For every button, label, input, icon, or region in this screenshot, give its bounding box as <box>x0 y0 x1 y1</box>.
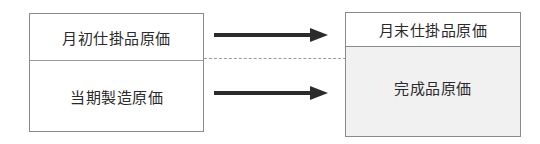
finished-goods-cost-label: 完成品原価 <box>394 77 472 98</box>
left-box: 月初仕掛品原価 当期製造原価 <box>29 13 204 132</box>
ending-wip-cost-cell: 月末仕掛品原価 <box>346 13 520 47</box>
finished-goods-cost-cell: 完成品原価 <box>346 47 520 136</box>
ending-wip-cost-label: 月末仕掛品原価 <box>379 19 488 40</box>
arrow-right-icon <box>214 85 328 101</box>
current-manufacturing-cost-cell: 当期製造原価 <box>30 61 203 131</box>
current-manufacturing-cost-label: 当期製造原価 <box>70 86 163 107</box>
beginning-wip-cost-cell: 月初仕掛品原価 <box>30 14 203 61</box>
right-box: 月末仕掛品原価 完成品原価 <box>345 12 521 137</box>
beginning-wip-cost-label: 月初仕掛品原価 <box>62 27 171 48</box>
arrow-right-icon <box>214 27 328 43</box>
